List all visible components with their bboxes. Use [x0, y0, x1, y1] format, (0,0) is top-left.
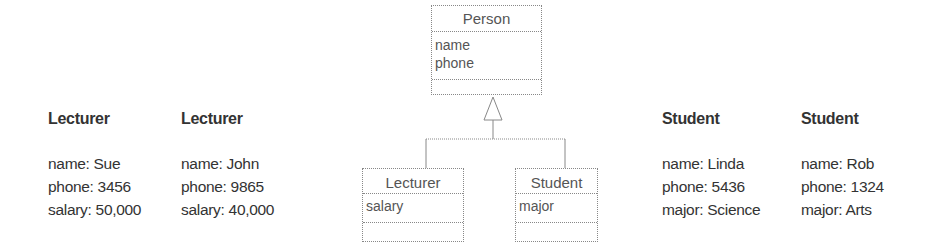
instance-field: name: Sue [48, 152, 141, 175]
class-operations [516, 222, 597, 241]
class-operations [363, 222, 463, 241]
instance-class: Lecturer [181, 110, 274, 128]
class-operations [432, 79, 541, 94]
class-name: Student [516, 169, 597, 194]
instance-field: name: Linda [662, 152, 760, 175]
uml-class-lecturer: Lecturer salary [362, 168, 464, 242]
instance-class: Lecturer [48, 110, 141, 128]
instance-field: phone: 9865 [181, 175, 274, 198]
instance-field: phone: 1324 [801, 175, 884, 198]
instance-class: Student [801, 110, 884, 128]
instance-lecturer-john: Lecturer name: John phone: 9865 salary: … [181, 110, 274, 221]
uml-class-student: Student major [515, 168, 598, 242]
class-name: Lecturer [363, 169, 463, 194]
generalization-arrow-icon [484, 97, 502, 120]
instance-field: name: John [181, 152, 274, 175]
class-attribute: phone [432, 54, 541, 72]
instance-field: phone: 5436 [662, 175, 760, 198]
instance-class: Student [662, 110, 760, 128]
class-attribute: major [516, 197, 597, 215]
instance-field: salary: 40,000 [181, 198, 274, 221]
instance-student-rob: Student name: Rob phone: 1324 major: Art… [801, 110, 884, 221]
instance-student-linda: Student name: Linda phone: 5436 major: S… [662, 110, 760, 221]
class-attribute: salary [363, 197, 463, 215]
class-name: Person [432, 6, 541, 32]
instance-field: name: Rob [801, 152, 884, 175]
instance-field: salary: 50,000 [48, 198, 141, 221]
instance-lecturer-sue: Lecturer name: Sue phone: 3456 salary: 5… [48, 110, 141, 221]
uml-class-person: Person name phone [431, 5, 542, 95]
instance-field: phone: 3456 [48, 175, 141, 198]
instance-field: major: Arts [801, 198, 884, 221]
instance-field: major: Science [662, 198, 760, 221]
class-attribute: name [432, 36, 541, 54]
